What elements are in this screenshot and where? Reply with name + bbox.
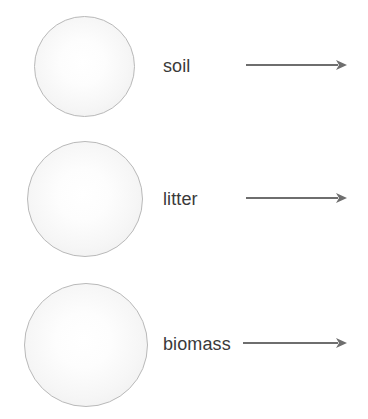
flow-arrow-soil	[246, 57, 347, 73]
flow-arrow-biomass	[243, 335, 347, 351]
pool-label-biomass: biomass	[163, 335, 231, 353]
pool-label-soil: soil	[163, 57, 190, 75]
flow-arrow-litter	[246, 190, 347, 206]
pool-circle-soil	[34, 16, 135, 117]
pool-circle-litter	[27, 141, 143, 257]
pool-flow-diagram: soil litter biomass	[0, 0, 368, 419]
pool-circle-biomass	[24, 283, 148, 407]
pool-label-litter: litter	[163, 190, 198, 208]
